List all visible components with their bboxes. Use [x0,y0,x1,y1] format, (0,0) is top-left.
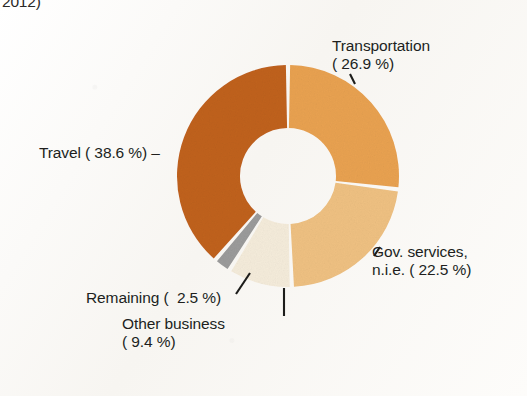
caption-year-fragment: 2012) [2,0,41,11]
donut-slices [177,65,399,287]
donut-slice-transportation [289,65,399,187]
slice-label-remaining: Remaining ( 2.5 %) [86,289,221,307]
slice-label-travel: Travel ( 38.6 %) – [39,144,160,162]
donut-chart: Transportation ( 26.9 %) Travel ( 38.6 %… [0,0,527,396]
donut-chart-svg [0,0,527,396]
slice-label-transportation: Transportation ( 26.9 %) [332,37,430,73]
leader-line-transportation [350,74,355,84]
slice-label-other-business: Other business ( 9.4 %) [122,315,225,351]
slice-label-gov-services: Gov. services, n.i.e. ( 22.5 %) [372,243,471,279]
